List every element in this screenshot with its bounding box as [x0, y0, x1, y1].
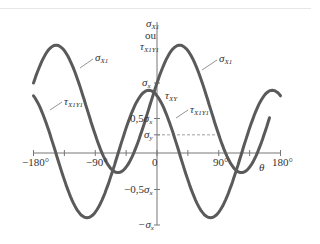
y-tick-half-sigma-x: 0,5σx [130, 113, 152, 126]
y-tick-neg-sigma-x: −σx [138, 219, 154, 232]
x-tick-minus-180: −180° [22, 157, 49, 168]
x-axis-theta: θ [259, 162, 264, 173]
x-tick-180: 180° [272, 157, 293, 168]
annotation-tau-right: τX1Y1 [190, 104, 209, 117]
y-tick-sigma-y: σy [144, 129, 153, 142]
annotation-tau-left: τX1Y1 [64, 96, 83, 109]
annotation-sigma-left: σX1 [95, 52, 108, 65]
x-tick-minus-90: −90° [86, 157, 108, 168]
x-tick-90: 90° [213, 157, 228, 168]
y-tick-neg-half-sigma-x: −0,5σx [124, 184, 153, 197]
y-tick-sigma-x: σx [142, 77, 151, 90]
x-tick-zero: 0 [152, 157, 158, 168]
y-axis-title-ou: ou [145, 30, 156, 41]
annotation-sigma-right: σX1 [219, 53, 232, 66]
annotation-tau-xy: τXY [165, 90, 177, 103]
y-axis-title-tau: τX1Y1 [140, 41, 159, 54]
